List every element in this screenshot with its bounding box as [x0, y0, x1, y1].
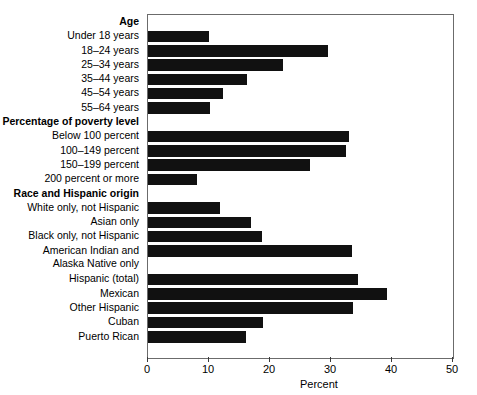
bar-slot — [148, 15, 453, 29]
category-label: Cuban — [0, 314, 143, 328]
category-label-line1: American Indian and — [43, 244, 139, 257]
x-axis-tick — [452, 357, 453, 362]
bar-slot — [148, 172, 453, 186]
bar-slot — [148, 315, 453, 329]
bar-slot — [148, 244, 453, 273]
bar-slot — [148, 287, 453, 301]
category-label: 100–149 percent — [0, 143, 143, 157]
bar — [148, 131, 349, 143]
bar — [148, 217, 251, 229]
bar — [148, 302, 353, 314]
bar — [148, 245, 352, 257]
bar — [148, 102, 210, 114]
x-axis-tick — [208, 357, 209, 362]
bar-slot — [148, 86, 453, 100]
group-heading-label: Percentage of poverty level — [0, 114, 143, 128]
bars-layer — [148, 15, 453, 358]
bar — [148, 59, 283, 71]
x-axis-title: Percent — [300, 378, 338, 390]
bar — [148, 45, 328, 57]
x-axis-tick-label: 20 — [263, 363, 275, 375]
category-label: 150–199 percent — [0, 157, 143, 171]
bar-chart: AgeUnder 18 years18–24 years25–34 years3… — [0, 0, 477, 395]
bar — [148, 274, 358, 286]
bar-slot — [148, 187, 453, 201]
category-label: White only, not Hispanic — [0, 200, 143, 214]
bar — [148, 74, 247, 86]
category-label: 200 percent or more — [0, 171, 143, 185]
x-axis-tick — [269, 357, 270, 362]
x-axis-tick-label: 40 — [385, 363, 397, 375]
bar-slot — [148, 72, 453, 86]
bar — [148, 159, 310, 171]
bar-slot — [148, 301, 453, 315]
bar — [148, 317, 263, 329]
x-axis-tick — [147, 357, 148, 362]
bar — [148, 88, 223, 100]
bar-slot — [148, 58, 453, 72]
bar-slot — [148, 158, 453, 172]
x-axis-tick — [330, 357, 331, 362]
bar-slot — [148, 129, 453, 143]
bar — [148, 202, 220, 214]
category-label: Below 100 percent — [0, 128, 143, 142]
group-heading-label: Age — [0, 14, 143, 28]
x-axis-tick-label: 30 — [324, 363, 336, 375]
bar — [148, 174, 197, 186]
bar-slot — [148, 330, 453, 344]
bar — [148, 231, 262, 243]
category-label-line2: Alaska Native only — [53, 257, 139, 270]
bar-slot — [148, 144, 453, 158]
category-label-column: AgeUnder 18 years18–24 years25–34 years3… — [0, 14, 143, 343]
category-label: Black only, not Hispanic — [0, 228, 143, 242]
bar — [148, 331, 246, 343]
x-axis: Percent 01020304050 — [147, 357, 454, 395]
bar-slot — [148, 115, 453, 129]
category-label: 45–54 years — [0, 85, 143, 99]
x-axis-tick-label: 10 — [202, 363, 214, 375]
bar-slot — [148, 201, 453, 215]
x-axis-tick-label: 50 — [446, 363, 458, 375]
category-label: Mexican — [0, 286, 143, 300]
x-axis-tick-label: 0 — [144, 363, 150, 375]
category-label: Hispanic (total) — [0, 271, 143, 285]
category-label: Other Hispanic — [0, 300, 143, 314]
bar-slot — [148, 229, 453, 243]
category-label: 18–24 years — [0, 43, 143, 57]
category-label: Under 18 years — [0, 28, 143, 42]
bar-slot — [148, 101, 453, 115]
category-label: 35–44 years — [0, 71, 143, 85]
bar-slot — [148, 272, 453, 286]
category-label: 25–34 years — [0, 57, 143, 71]
x-axis-tick — [391, 357, 392, 362]
category-label: Asian only — [0, 214, 143, 228]
category-label: Puerto Rican — [0, 329, 143, 343]
bar — [148, 31, 209, 43]
category-label: 55–64 years — [0, 100, 143, 114]
bar — [148, 145, 346, 157]
bar-slot — [148, 215, 453, 229]
bar — [148, 288, 387, 300]
bar-slot — [148, 44, 453, 58]
bar-slot — [148, 29, 453, 43]
category-label: American Indian andAlaska Native only — [0, 243, 143, 272]
group-heading-label: Race and Hispanic origin — [0, 186, 143, 200]
